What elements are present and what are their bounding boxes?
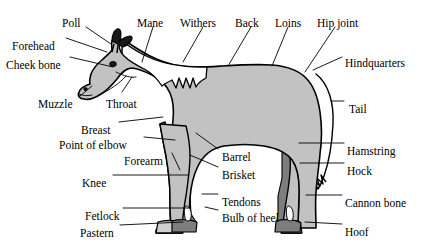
label-tendons: Tendons xyxy=(222,197,261,209)
far-hind-hoof xyxy=(275,220,301,232)
leader-line-bulb-of-heel xyxy=(205,207,218,210)
label-pastern: Pastern xyxy=(80,228,114,240)
leader-line-poll xyxy=(86,27,111,44)
label-mane: Mane xyxy=(137,18,163,30)
far-fore-hoof xyxy=(172,220,197,232)
label-hamstring: Hamstring xyxy=(347,146,396,158)
label-hock: Hock xyxy=(347,166,372,178)
label-loins: Loins xyxy=(275,18,301,30)
label-knee: Knee xyxy=(82,178,106,190)
label-hindquarters: Hindquarters xyxy=(345,58,405,70)
leader-line-loins xyxy=(272,27,288,66)
label-muzzle: Muzzle xyxy=(38,99,72,111)
leader-line-hindquarters xyxy=(313,57,342,70)
label-fetlock: Fetlock xyxy=(85,211,120,223)
label-hip-joint: Hip joint xyxy=(317,18,358,30)
label-cannon-bone: Cannon bone xyxy=(345,198,406,210)
label-hoof: Hoof xyxy=(345,227,369,239)
leader-line-back xyxy=(228,27,251,66)
leader-line-breast xyxy=(119,117,163,122)
label-tail: Tail xyxy=(349,104,367,116)
label-barrel: Barrel xyxy=(222,152,251,164)
label-throat: Throat xyxy=(106,99,137,111)
horse-anatomy-diagram: PollManeWithersBackLoinsHip jointForehea… xyxy=(0,0,436,246)
label-forehead: Forehead xyxy=(12,41,55,53)
label-point-of-elbow: Point of elbow xyxy=(59,140,127,152)
label-forearm: Forearm xyxy=(124,156,163,168)
leader-line-forehead xyxy=(66,38,107,52)
label-brisket: Brisket xyxy=(222,170,255,182)
leader-line-withers xyxy=(183,27,203,62)
leader-line-hip-joint xyxy=(305,27,335,72)
label-breast: Breast xyxy=(81,125,110,137)
label-withers: Withers xyxy=(180,18,216,30)
label-cheek-bone: Cheek bone xyxy=(6,60,61,72)
label-bulb-of-heel: Bulb of heel xyxy=(222,213,279,225)
bulb-of-heel-void-rear xyxy=(286,206,293,221)
label-back: Back xyxy=(235,18,259,30)
eye xyxy=(110,61,117,66)
label-poll: Poll xyxy=(62,18,81,30)
